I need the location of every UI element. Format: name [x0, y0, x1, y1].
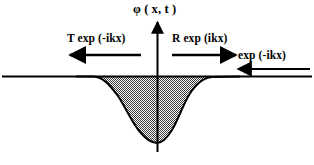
reflected-wave-label: R exp (ikx) — [172, 33, 227, 45]
transmitted-wave-label: T exp (-ikx) — [67, 33, 126, 45]
incident-wave-label: exp (-ikx) — [238, 50, 286, 62]
scattering-diagram: φ ( x, t ) T exp (-ikx) R exp (ikx) exp … — [0, 0, 314, 165]
phi-axis-label: φ ( x, t ) — [133, 3, 176, 16]
diagram-canvas — [0, 0, 314, 165]
